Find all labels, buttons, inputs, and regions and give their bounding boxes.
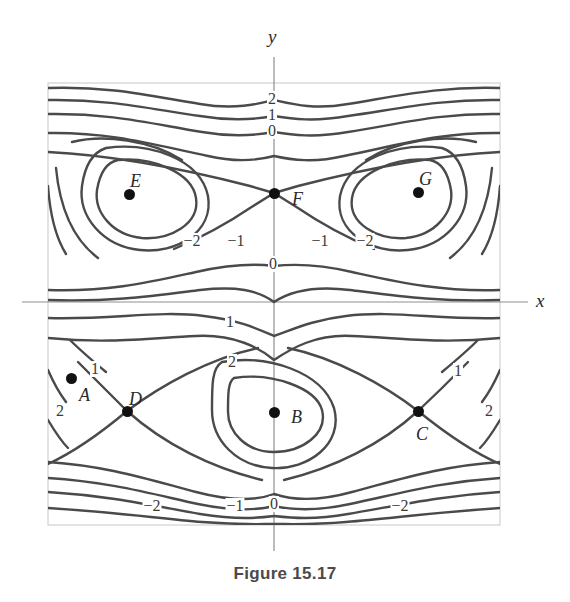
separatrix-through-C-upleft: [288, 348, 418, 411]
contour-A-arc-3: [48, 420, 68, 448]
contour-label: 1: [267, 107, 277, 123]
contour-label: −1: [310, 233, 329, 249]
contour-neg1-left-arc: [72, 139, 182, 160]
contour-label: 1: [225, 314, 235, 330]
marked-point-b: [269, 407, 280, 418]
contour-label: 2: [55, 403, 65, 419]
contour-neg2-right-arc: [450, 168, 492, 258]
contour-label: 0: [268, 256, 278, 272]
separatrix-through-D-downright: [127, 411, 262, 480]
contour-label: −1: [225, 498, 244, 514]
point-label-c: C: [416, 424, 428, 445]
contour-label: −2: [390, 498, 409, 514]
contour-label: 1: [453, 363, 463, 379]
contour-label: 2: [227, 354, 237, 370]
contour-neg2-left-arc-b: [48, 186, 66, 254]
contour-neg1-right-arc: [366, 139, 476, 160]
contour-A-arc-2: [48, 370, 66, 402]
contour-label: −2: [142, 498, 161, 514]
contour-right-arc-3: [480, 420, 500, 448]
point-label-e: E: [130, 171, 141, 192]
contour-right-arc-2: [482, 370, 500, 402]
contour-figure: y x ABCDEFG 210−2−1−1−20121212−2−10−2: [0, 0, 570, 602]
marked-point-c: [413, 406, 424, 417]
contour-label: 2: [484, 403, 494, 419]
contour-label: −2: [355, 233, 374, 249]
contour-E-inner: [97, 160, 197, 239]
contour-label: 0: [267, 123, 277, 139]
figure-page: y x ABCDEFG 210−2−1−1−20121212−2−10−2 Fi…: [0, 0, 570, 602]
point-label-f: F: [292, 189, 303, 210]
contour-label: −1: [226, 233, 245, 249]
y-axis-label: y: [268, 26, 276, 48]
contour-label: 1: [90, 361, 100, 377]
point-label-a: A: [79, 385, 90, 406]
point-label-b: B: [291, 407, 302, 428]
contour-plot-svg: [0, 0, 570, 602]
contour-neg2-right-arc-b: [482, 186, 500, 254]
point-label-d: D: [129, 389, 142, 410]
separatrix-through-D-upright: [127, 348, 258, 411]
contour-neg2-left-arc: [56, 168, 98, 258]
figure-caption: Figure 15.17: [0, 564, 570, 584]
contour-G-inner: [352, 160, 452, 239]
marked-point-a: [66, 373, 77, 384]
point-label-g: G: [419, 169, 432, 190]
contour-label: 2: [267, 91, 277, 107]
contour-A-arc-1: [70, 340, 106, 372]
contour-label: 0: [269, 496, 279, 512]
x-axis-label: x: [536, 290, 544, 312]
marked-point-f: [269, 188, 280, 199]
contour-label: −2: [182, 233, 201, 249]
